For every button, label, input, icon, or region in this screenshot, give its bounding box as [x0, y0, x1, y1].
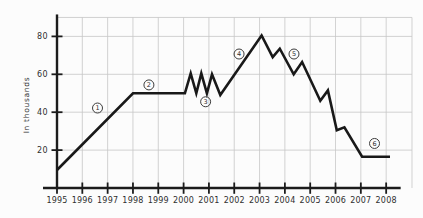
annotation-number-1: 1 — [95, 104, 99, 112]
y-tick-label: 60 — [37, 70, 48, 79]
annotation-number-3: 3 — [204, 98, 208, 106]
y-tick-label: 20 — [37, 146, 48, 155]
x-tick-label: 2002 — [224, 196, 245, 205]
annotation-number-6: 6 — [372, 140, 376, 148]
x-tick-label: 2007 — [350, 196, 371, 205]
y-tick-label: 40 — [37, 108, 48, 117]
line-chart-figure: 2040608019951996199719981999200020012002… — [0, 0, 423, 218]
x-tick-label: 1998 — [122, 196, 143, 205]
x-tick-label: 2005 — [300, 196, 321, 205]
x-tick-label: 2003 — [249, 196, 270, 205]
x-tick-label: 2004 — [274, 196, 295, 205]
x-tick-label: 1997 — [97, 196, 118, 205]
y-tick-label: 80 — [37, 32, 48, 41]
x-tick-label: 1995 — [46, 196, 67, 205]
line-chart: 2040608019951996199719981999200020012002… — [0, 0, 423, 218]
annotation-number-2: 2 — [147, 81, 151, 89]
annotation-number-4: 4 — [237, 50, 241, 58]
x-tick-label: 1999 — [148, 196, 169, 205]
x-tick-label: 2006 — [325, 196, 346, 205]
x-tick-label: 2000 — [173, 196, 194, 205]
annotation-number-5: 5 — [292, 50, 296, 58]
x-tick-label: 1996 — [72, 196, 93, 205]
x-tick-label: 2008 — [376, 196, 397, 205]
y-axis-title: In thousands — [22, 77, 31, 134]
chart-page: 2040608019951996199719981999200020012002… — [0, 0, 423, 218]
x-tick-label: 2001 — [198, 196, 219, 205]
chart-background — [0, 0, 423, 218]
